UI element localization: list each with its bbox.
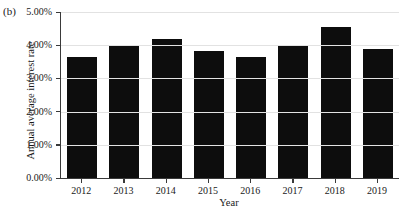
y-axis-tick-label: 4.00% bbox=[8, 40, 52, 50]
bar bbox=[152, 39, 182, 178]
x-axis-tick bbox=[250, 179, 251, 183]
y-axis-tick-label: 1.00% bbox=[8, 140, 52, 150]
x-axis-tick-label: 2016 bbox=[229, 185, 271, 196]
y-axis-tick-label: 5.00% bbox=[8, 7, 52, 17]
gridline bbox=[61, 45, 399, 46]
x-axis-tick-label: 2019 bbox=[356, 185, 398, 196]
x-axis-tick-label: 2018 bbox=[314, 185, 356, 196]
y-axis-tick bbox=[56, 144, 60, 145]
bar bbox=[363, 49, 393, 178]
x-axis-tick-label: 2013 bbox=[102, 185, 144, 196]
bar bbox=[67, 57, 97, 178]
bar-chart-figure: (b) Annual average interest rate 2012201… bbox=[0, 0, 406, 213]
x-axis-tick-label: 2017 bbox=[271, 185, 313, 196]
x-axis-tick-label: 2012 bbox=[60, 185, 102, 196]
bar-slot bbox=[230, 12, 272, 178]
x-axis-tick bbox=[123, 179, 124, 183]
gridline bbox=[61, 78, 399, 79]
x-axis-tick bbox=[335, 179, 336, 183]
bar bbox=[194, 51, 224, 178]
bar bbox=[321, 27, 351, 178]
bar-slot bbox=[315, 12, 357, 178]
y-axis-tick bbox=[56, 78, 60, 79]
bar bbox=[236, 57, 266, 178]
plot-area bbox=[60, 12, 399, 179]
x-axis-tick bbox=[81, 179, 82, 183]
bar-slot bbox=[188, 12, 230, 178]
gridline bbox=[61, 112, 399, 113]
x-axis-tick bbox=[377, 179, 378, 183]
x-axis-tick-label: 2015 bbox=[187, 185, 229, 196]
y-axis-tick bbox=[56, 45, 60, 46]
bar-slot bbox=[61, 12, 103, 178]
x-axis-tick-label: 2014 bbox=[145, 185, 187, 196]
y-axis-tick bbox=[56, 111, 60, 112]
bar-slot bbox=[357, 12, 399, 178]
y-axis-tick-label: 3.00% bbox=[8, 73, 52, 83]
y-axis-tick-label: 2.00% bbox=[8, 107, 52, 117]
bar-series bbox=[61, 12, 399, 178]
gridline bbox=[61, 12, 399, 13]
x-axis-title: Year bbox=[60, 197, 398, 209]
bar-slot bbox=[103, 12, 145, 178]
y-axis-tick bbox=[56, 12, 60, 13]
y-axis-tick-label: 0.00% bbox=[8, 173, 52, 183]
x-axis-tick bbox=[292, 179, 293, 183]
bar-slot bbox=[272, 12, 314, 178]
x-axis-tick bbox=[208, 179, 209, 183]
bar-slot bbox=[146, 12, 188, 178]
x-axis-tick bbox=[166, 179, 167, 183]
gridline bbox=[61, 145, 399, 146]
